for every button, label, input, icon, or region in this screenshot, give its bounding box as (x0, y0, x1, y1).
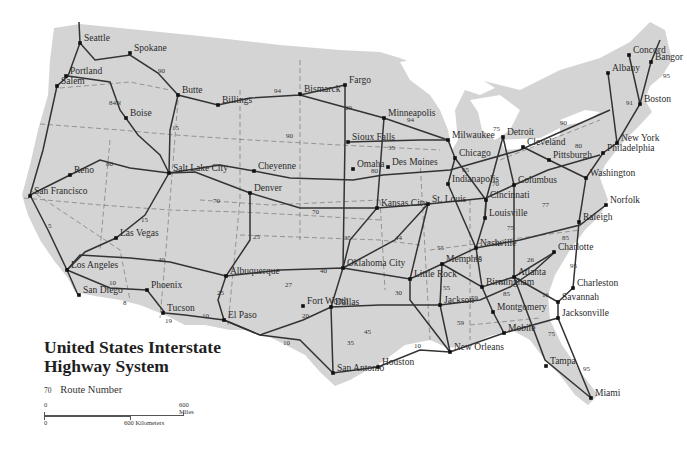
city-dot (556, 300, 560, 304)
city-dot (601, 151, 605, 155)
city-dot (649, 60, 653, 64)
city-label: Bangor (655, 52, 684, 62)
route-number: 35 (347, 339, 355, 347)
route-number: 65 (475, 254, 483, 262)
route-number: 5 (48, 222, 52, 230)
city-label: Phoenix (151, 280, 182, 290)
city-dot (78, 41, 82, 45)
city-label: New York (621, 133, 660, 143)
city-label: Norfolk (610, 195, 640, 205)
route-number: 70 (213, 197, 221, 205)
scale-bar: 0 600 Miles 0 600 Kilometers (44, 403, 204, 433)
city-label: Oklahoma City (347, 258, 406, 268)
city-label: Albuquerque (230, 266, 280, 276)
city-label: Jacksonville (562, 308, 609, 318)
route-number: 44 (395, 234, 403, 242)
route-number: 85 (562, 234, 570, 242)
route-number: 55 (437, 244, 445, 252)
route-number: 8 (123, 299, 127, 307)
city-dot (252, 169, 256, 173)
city-dot (438, 303, 442, 307)
city-dot (577, 220, 581, 224)
route-number: 94 (274, 87, 282, 95)
map-legend: United States Interstate Highway System … (44, 338, 221, 395)
city-dot (114, 236, 118, 240)
city-label: Des Moines (392, 157, 438, 167)
city-label: Mobile (508, 323, 535, 333)
city-dot (375, 206, 379, 210)
city-label: St. Louis (432, 194, 467, 204)
city-dot (216, 103, 220, 107)
city-label: Columbus (518, 175, 557, 185)
city-dot (440, 262, 444, 266)
city-dot (480, 285, 484, 289)
route-number: 16 (542, 291, 550, 299)
route-number: 35 (388, 144, 396, 152)
city-label: Little Rock (414, 269, 457, 279)
city-dot (501, 135, 505, 139)
city-dot (128, 51, 132, 55)
route-number: 10 (414, 342, 422, 350)
city-label: San Diego (83, 285, 123, 295)
route-label: Route Number (60, 384, 122, 395)
city-label: Montgomery (497, 302, 547, 312)
city-dot (638, 102, 642, 106)
city-dot (491, 310, 495, 314)
city-label: Miami (595, 388, 621, 398)
route-number: 90 (158, 67, 166, 75)
city-label: Salem (61, 76, 85, 86)
route-number: 15 (141, 216, 149, 224)
route-number: 40 (494, 240, 502, 248)
city-dot (65, 268, 69, 272)
route-number: 26 (527, 256, 535, 264)
map-title-line2: Highway System (44, 357, 221, 376)
city-label: Jackson (444, 295, 474, 305)
city-label: Houston (382, 357, 414, 367)
city-dot (483, 216, 487, 220)
city-dot (521, 145, 525, 149)
route-number: 75 (507, 224, 515, 232)
route-number: 25 (253, 233, 261, 241)
city-dot (604, 203, 608, 207)
city-dot (556, 316, 560, 320)
route-number: 59 (457, 319, 465, 327)
route-number: 80 (106, 160, 114, 168)
city-label: Seattle (84, 33, 110, 43)
route-number: 55 (443, 284, 451, 292)
city-dot (474, 246, 478, 250)
route-number: 59 (471, 294, 479, 302)
route-number: 40 (320, 267, 328, 275)
city-label: Los Angeles (71, 260, 119, 270)
route-number: 75 (548, 330, 556, 338)
city-dot (448, 350, 452, 354)
city-label: Cleveland (527, 137, 566, 147)
city-dot (426, 202, 430, 206)
city-dot (298, 92, 302, 96)
route-sample: 70 (44, 386, 52, 395)
city-dot (176, 93, 180, 97)
city-label: Fargo (349, 75, 371, 85)
route-number: 94 (407, 116, 415, 124)
scale-miles-start: 0 (44, 401, 47, 408)
scale-km-bar (44, 416, 131, 420)
route-number: 45 (364, 328, 372, 336)
city-dot (341, 266, 345, 270)
city-dot (222, 318, 226, 322)
city-label: Sioux Falls (352, 132, 395, 142)
route-number: 91 (626, 99, 634, 107)
city-dot (343, 83, 347, 87)
route-number: 95 (663, 72, 671, 80)
city-dot (547, 158, 551, 162)
city-label: Pittsburgh (553, 150, 592, 160)
city-dot (502, 331, 506, 335)
route-number: 29 (345, 104, 353, 112)
city-dot (124, 116, 128, 120)
scale-km-end: 600 Kilometers (124, 419, 164, 426)
city-dot (386, 165, 390, 169)
route-number: 35 (344, 234, 352, 242)
city-label: Kansas City (381, 198, 427, 208)
city-dot (145, 288, 149, 292)
city-label: Louisville (489, 208, 528, 218)
route-number: 75 (493, 125, 501, 133)
city-dot (346, 140, 350, 144)
